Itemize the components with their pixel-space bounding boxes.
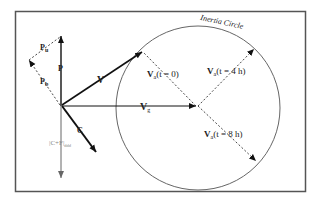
inertia-circle-label: Inertia Circle: [199, 13, 245, 31]
label-v: V: [97, 74, 105, 85]
label-va-t4: Va(t = 4 h): [207, 66, 246, 77]
vector-va-t4: [198, 49, 254, 106]
label-pb: Pb: [40, 77, 49, 87]
label-vg: Vg: [140, 101, 150, 113]
vector-va-t0: [144, 53, 196, 106]
label-pu: Pu: [40, 43, 49, 53]
label-va-t0: Va(t = 0): [147, 69, 179, 80]
label-c: C: [77, 126, 83, 135]
label-va-t8: Va(t = 8 h): [204, 129, 243, 140]
inertia-circle-diagram: Inertia Circle P Pu Pb V Vg C |C+F|ddd V…: [0, 0, 323, 204]
label-p: P: [58, 64, 63, 73]
label-cf: |C+F|ddd: [49, 139, 72, 148]
frame-border: [16, 12, 306, 192]
